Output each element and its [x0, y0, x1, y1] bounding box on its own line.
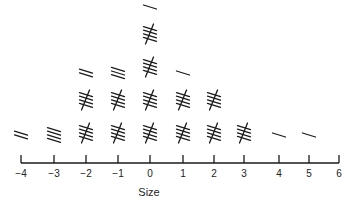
tick-label: 4 — [276, 168, 282, 179]
tally-column — [238, 123, 251, 143]
tally-column — [144, 5, 157, 143]
tally-column — [112, 67, 125, 143]
x-tick-labels: −4−3−2−10123456 — [15, 168, 342, 179]
tick-label: −4 — [15, 168, 27, 179]
tally-column — [48, 128, 61, 143]
tick-label: 2 — [211, 168, 217, 179]
tick-label: −2 — [80, 168, 92, 179]
tally-column — [177, 71, 190, 143]
tick-label: 5 — [306, 168, 312, 179]
tick-label: −3 — [48, 168, 60, 179]
tally-column — [303, 133, 316, 137]
tick-label: 3 — [241, 168, 247, 179]
tally-column — [208, 90, 221, 143]
tally-chart: −4−3−2−10123456 Size — [0, 0, 352, 208]
x-axis-label: Size — [138, 186, 159, 198]
tally-marks — [15, 5, 316, 143]
tally-column — [273, 133, 286, 137]
tick-label: 6 — [336, 168, 342, 179]
x-axis — [21, 155, 339, 163]
tick-label: 0 — [147, 168, 153, 179]
tally-column — [15, 131, 28, 139]
tally-column — [80, 69, 93, 143]
tick-label: −1 — [112, 168, 124, 179]
tick-label: 1 — [180, 168, 186, 179]
